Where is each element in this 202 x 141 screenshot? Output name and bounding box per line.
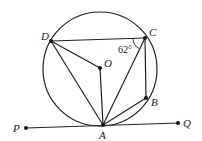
- label-C: C: [149, 26, 157, 38]
- label-P: P: [12, 122, 20, 134]
- point-P: [24, 126, 28, 130]
- label-D: D: [40, 30, 49, 42]
- point-D: [49, 39, 53, 43]
- segment-DO: [51, 41, 100, 68]
- label-O: O: [104, 57, 112, 69]
- point-O: [98, 66, 102, 70]
- point-Q: [176, 121, 180, 125]
- label-Q: Q: [183, 117, 191, 129]
- segment-OA: [100, 68, 103, 125]
- segment-DA: [51, 41, 103, 125]
- segment-DC: [51, 38, 145, 41]
- label-B: B: [151, 96, 158, 108]
- point-A: [101, 123, 105, 127]
- point-C: [143, 36, 147, 40]
- segment-CB: [145, 38, 146, 98]
- angle-arc-C: [133, 38, 140, 48]
- geometry-diagram: D C O B A P Q 62°: [0, 0, 202, 141]
- label-A: A: [98, 129, 106, 141]
- angle-label-62: 62°: [118, 44, 132, 55]
- point-B: [144, 96, 148, 100]
